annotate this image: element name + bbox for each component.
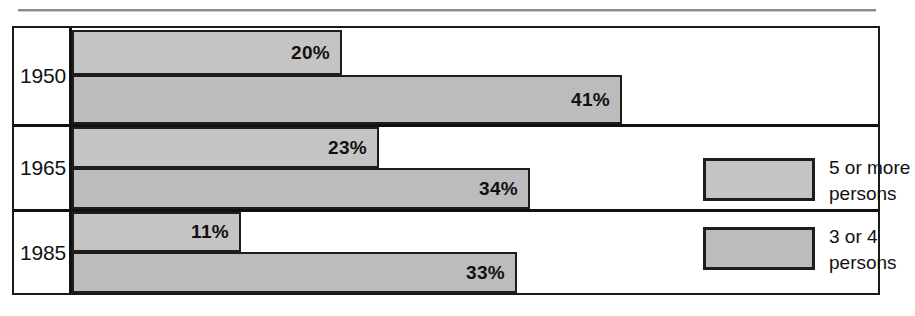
bar-1950-3-or-4[interactable]: 41% — [72, 75, 622, 124]
legend-item-3-or-4: 3 or 4 persons — [703, 225, 915, 283]
bar-value-label: 11% — [191, 221, 229, 243]
bar-1965-5-or-more[interactable]: 23% — [72, 127, 379, 168]
legend-label: 5 or more persons — [829, 155, 910, 207]
bar-1950-5-or-more[interactable]: 20% — [72, 30, 342, 75]
bar-1965-3-or-4[interactable]: 34% — [72, 168, 530, 209]
year-label-1965: 1965 — [14, 124, 72, 209]
bar-value-label: 41% — [571, 89, 610, 111]
bar-1985-3-or-4[interactable]: 33% — [72, 252, 517, 293]
year-label-1985: 1985 — [14, 209, 72, 293]
bar-value-label: 34% — [479, 178, 518, 200]
legend-swatch-icon — [703, 158, 815, 201]
legend-item-5-or-more: 5 or more persons — [703, 156, 915, 214]
bar-value-label: 23% — [328, 137, 367, 159]
top-divider-rule — [18, 9, 876, 11]
bar-1985-5-or-more[interactable]: 11% — [72, 212, 241, 252]
plot-area: 20% 41% 23% 34% — [72, 28, 878, 293]
bar-row-1950-3-or-4: 41% — [72, 75, 878, 124]
bar-value-label: 20% — [291, 42, 330, 64]
legend-label: 3 or 4 persons — [829, 224, 897, 276]
bar-row-1950-5-or-more: 20% — [72, 30, 878, 75]
chart-frame: 1950 1965 1985 20% 41% 2 — [12, 26, 880, 295]
legend-swatch-icon — [703, 227, 815, 270]
chart-legend: 5 or more persons 3 or 4 persons — [703, 156, 915, 294]
bar-value-label: 33% — [466, 262, 505, 284]
year-axis-column: 1950 1965 1985 — [14, 28, 72, 293]
year-label-1950: 1950 — [14, 28, 72, 124]
